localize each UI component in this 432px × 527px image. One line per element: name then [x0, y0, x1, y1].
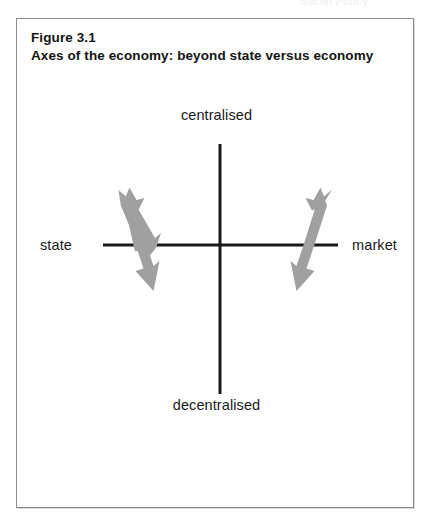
right-arrow-icon: [291, 188, 333, 292]
axis-label-state: state: [40, 237, 72, 253]
figure-box: Figure 3.1 Axes of the economy: beyond s…: [16, 18, 414, 508]
right-arrow-fletching: [306, 188, 333, 211]
axis-label-decentralised: decentralised: [20, 397, 413, 413]
right-arrow-shaft-head: [291, 195, 328, 291]
axis-label-market: market: [352, 237, 397, 253]
left-arrow-icon: [118, 188, 161, 292]
running-head-fragment: Social Policy: [300, 0, 420, 8]
page-canvas: Social Policy Figure 3.1 Axes of the eco…: [0, 0, 432, 527]
axis-label-centralised: centralised: [20, 107, 413, 123]
quadrant-diagram: [17, 19, 415, 509]
